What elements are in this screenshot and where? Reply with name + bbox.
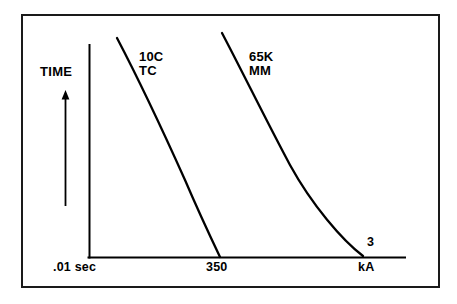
x-axis-unit-label: kA xyxy=(358,261,374,275)
curve-65k-mm-label-line2: MM xyxy=(249,64,273,78)
curve-65k-mm-annotation: 65K MM xyxy=(249,50,273,78)
figure-root: TIME 10C TC 65K MM .01 sec 350 3 kA xyxy=(0,0,457,304)
curve-10c-tc-label-line1: 10C xyxy=(139,50,163,64)
curve-10c-tc-label-line2: TC xyxy=(139,64,163,78)
up-arrow-icon xyxy=(62,90,70,206)
curve-65k-mm-label-line1: 65K xyxy=(249,50,273,64)
x-axis-mid-label: 350 xyxy=(206,261,227,275)
plot-canvas xyxy=(0,0,457,304)
y-axis-label: TIME xyxy=(40,65,72,79)
curve-10c-tc-annotation: 10C TC xyxy=(139,50,163,78)
curve-65k-mm xyxy=(222,33,363,256)
x-axis-end-value-label: 3 xyxy=(367,236,374,250)
curve-10c-tc xyxy=(117,38,220,257)
x-axis-origin-label: .01 sec xyxy=(53,261,96,275)
